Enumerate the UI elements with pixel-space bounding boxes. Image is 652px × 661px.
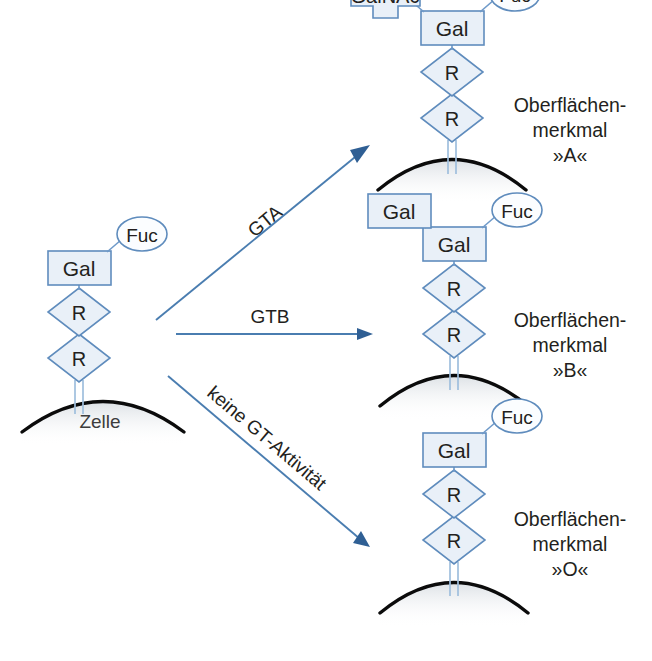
product-b-node-fuc-label: Fuc xyxy=(501,201,533,222)
precursor-node-r-lower-label: R xyxy=(72,348,86,370)
product-a-node-fuc-label: Fuc xyxy=(499,0,531,6)
product-a-node-galnac-label: GalNAc xyxy=(351,0,420,7)
product-a-structure: R R Gal Fuc GalNAc xyxy=(351,0,540,204)
arrow-gtb-head xyxy=(357,328,373,340)
arrow-no-gt-activity: keine GT-Aktivität xyxy=(168,376,370,547)
product-b-node-r-upper-label: R xyxy=(447,278,461,300)
arrow-no-gt-activity-label: keine GT-Aktivität xyxy=(203,382,331,495)
product-b-structure: R R Gal Fuc Gal xyxy=(368,193,542,420)
outcome-b-line1: Oberflächen- xyxy=(514,309,627,331)
abo-antigen-diagram: R R Gal Fuc Zelle GTA GTB keine GT-Aktiv… xyxy=(0,0,652,661)
outcome-o-line1: Oberflächen- xyxy=(514,508,627,530)
product-b-node-gal-branch-label: Gal xyxy=(383,200,416,223)
arrow-no-gt-activity-head xyxy=(353,531,370,547)
precursor-cell-caption: Zelle xyxy=(79,411,120,432)
arrow-gta: GTA xyxy=(156,145,370,320)
product-b-node-gal-center-label: Gal xyxy=(438,233,471,256)
precursor-node-r-upper-label: R xyxy=(72,302,86,324)
product-o-node-fuc-label: Fuc xyxy=(501,407,533,428)
product-o-membrane-shade xyxy=(380,584,528,628)
product-a-node-r-lower-label: R xyxy=(445,108,459,130)
product-a-node-r-upper-label: R xyxy=(445,62,459,84)
product-a-node-gal-label: Gal xyxy=(436,17,469,40)
outcome-label-o: Oberflächen- merkmal »O« xyxy=(514,508,627,580)
diagram-canvas: R R Gal Fuc Zelle GTA GTB keine GT-Aktiv… xyxy=(0,0,652,661)
arrow-gtb: GTB xyxy=(176,306,373,341)
arrow-gta-label: GTA xyxy=(244,201,287,241)
arrow-no-gt-activity-line xyxy=(168,376,360,539)
precursor-node-gal-label: Gal xyxy=(63,257,96,280)
outcome-label-b: Oberflächen- merkmal »B« xyxy=(514,309,627,381)
outcome-label-a: Oberflächen- merkmal »A« xyxy=(514,94,627,166)
outcome-o-line3: »O« xyxy=(552,558,589,580)
outcome-a-line2: merkmal xyxy=(533,119,608,141)
outcome-o-line2: merkmal xyxy=(533,533,608,555)
outcome-b-line2: merkmal xyxy=(533,334,608,356)
product-b-node-r-lower-label: R xyxy=(447,324,461,346)
precursor-structure: R R Gal Fuc Zelle xyxy=(22,217,184,446)
product-o-node-r-upper-label: R xyxy=(447,484,461,506)
precursor-node-fuc-label: Fuc xyxy=(126,225,158,246)
product-o-node-r-lower-label: R xyxy=(447,530,461,552)
outcome-a-line3: »A« xyxy=(553,144,588,166)
outcome-b-line3: »B« xyxy=(553,359,588,381)
arrow-gta-head xyxy=(350,145,370,163)
outcome-a-line1: Oberflächen- xyxy=(514,94,627,116)
product-o-node-gal-label: Gal xyxy=(438,439,471,462)
arrow-gtb-label: GTB xyxy=(250,306,289,327)
